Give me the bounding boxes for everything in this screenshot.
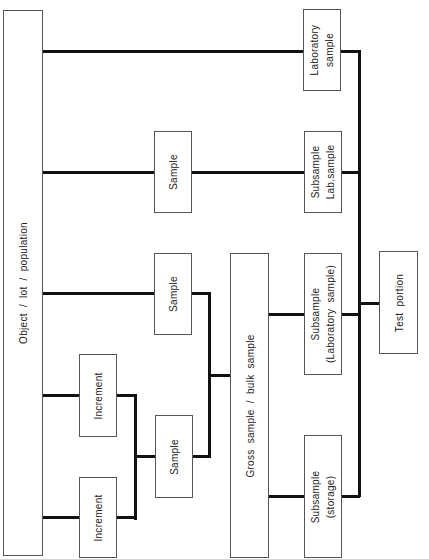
subsample-lab-sample-label: Subsample Lab.sample [308, 145, 338, 200]
subsample-storage-line1: Subsample [310, 470, 321, 523]
connector-sample-bottom-right [191, 455, 211, 458]
connector-trunk-test-portion [358, 302, 380, 305]
subsample-storage-line2: (storage) [325, 475, 336, 518]
connector-subsample-lab-trunk [341, 171, 360, 174]
sample-bottom-box: Sample [155, 415, 193, 498]
subsample-lab-line2: Lab.sample [325, 145, 336, 200]
connector-object-increment-2 [42, 516, 80, 519]
increment-2-box: Increment [79, 477, 117, 558]
subsample-storage-box: Subsample (storage) [304, 435, 342, 558]
laboratory-sample-box: Laboratory sample [303, 9, 341, 91]
increment-2-label: Increment [91, 494, 106, 541]
laboratory-sample-label: Laboratory sample [307, 25, 337, 76]
connector-samples-gross [208, 374, 231, 377]
connector-sample-top-subsample-lab [191, 171, 305, 174]
increment-1-box: Increment [79, 354, 117, 437]
laboratory-sample-line1: Laboratory [309, 25, 320, 76]
connector-object-increment-1 [42, 394, 80, 397]
test-portion-label: Test portion [391, 273, 406, 331]
subsample-laboratory-line1: Subsample [310, 288, 321, 341]
connector-object-labsample [42, 50, 304, 53]
connector-object-sample-mid [42, 292, 155, 295]
subsample-storage-label: Subsample (storage) [308, 470, 338, 523]
subsample-lab-sample-box: Subsample Lab.sample [304, 131, 342, 213]
gross-sample-box: Gross sample / bulk sample [230, 253, 269, 558]
subsample-laboratory-label: Subsample (Laboratory sample) [308, 265, 338, 363]
object-lot-population-label: Object / lot / population [16, 222, 31, 344]
connector-increment-1-right [116, 394, 136, 397]
subsample-laboratory-sample-box: Subsample (Laboratory sample) [304, 253, 342, 375]
connector-gross-subsample-lab [268, 313, 305, 316]
connector-increment-2-right [116, 516, 136, 519]
increment-1-label: Increment [91, 372, 106, 419]
connector-right-trunk [358, 50, 361, 497]
laboratory-sample-line2: sample [324, 33, 335, 67]
subsample-laboratory-line2: (Laboratory sample) [325, 265, 336, 363]
object-lot-population-box: Object / lot / population [3, 10, 43, 556]
sample-bottom-label: Sample [167, 439, 182, 475]
test-portion-box: Test portion [379, 251, 418, 354]
sample-mid-box: Sample [154, 253, 192, 335]
sample-top-label: Sample [166, 154, 181, 190]
sample-top-box: Sample [154, 131, 192, 213]
connector-increments-sample-bottom [134, 455, 156, 458]
connector-object-sample-top [42, 171, 155, 174]
connector-subsample-storage-trunk [341, 495, 360, 498]
connector-gross-subsample-storage [268, 495, 305, 498]
sample-mid-label: Sample [166, 276, 181, 312]
connector-subsample-laboratory-trunk [341, 313, 360, 316]
gross-sample-label: Gross sample / bulk sample [242, 334, 257, 477]
sampling-diagram: Object / lot / population Laboratory sam… [0, 0, 429, 559]
subsample-lab-line1: Subsample [310, 146, 321, 199]
